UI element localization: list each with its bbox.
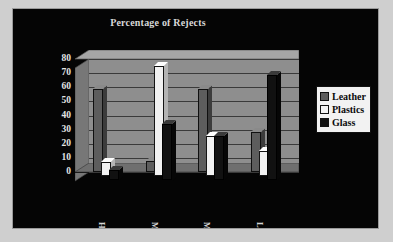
bar-glass-harrisburg <box>109 170 119 180</box>
bar-glass-lafayette <box>267 75 277 180</box>
legend-label: Leather <box>332 92 366 102</box>
legend-item-leather[interactable]: Leather <box>320 90 366 103</box>
bar-front-face <box>109 170 119 180</box>
legend-swatch-icon <box>320 118 329 127</box>
bar-front-face <box>214 136 224 180</box>
legend-swatch-icon <box>320 105 329 114</box>
legend-label: Glass <box>332 118 355 128</box>
y-axis-tick: 60 <box>39 83 71 93</box>
gridline <box>89 59 299 60</box>
category-label: Lafayette <box>255 222 265 229</box>
bar-glass-morristown <box>214 136 224 180</box>
y-axis-tick: 40 <box>39 111 71 121</box>
bar-front-face <box>267 75 277 180</box>
legend-swatch-icon <box>320 92 329 101</box>
y-axis-tick: 20 <box>39 139 71 149</box>
legend-label: Plastics <box>332 105 364 115</box>
y-axis-tick: 80 <box>39 54 71 64</box>
chart-frame: Percentage of Rejects 01020304050607080 <box>12 8 379 229</box>
bar-front-face <box>162 124 172 181</box>
bar-glass-mobile <box>162 124 172 181</box>
bar-side-face <box>224 133 228 180</box>
bar-leather-harrisburg <box>93 89 103 172</box>
y-axis-tick: 50 <box>39 97 71 107</box>
bar-side-face <box>277 72 281 180</box>
legend-item-glass[interactable]: Glass <box>320 116 366 129</box>
y-axis-tick: 10 <box>39 153 71 163</box>
bar-front-face <box>93 89 103 172</box>
y-axis-tick: 0 <box>39 167 71 177</box>
plot-area: HarrisburgMobileMorristownLafayette <box>75 50 299 177</box>
chart-legend: LeatherPlasticsGlass <box>316 86 371 133</box>
category-label: Harrisburg <box>97 222 107 229</box>
chart-title: Percentage of Rejects <box>13 17 303 28</box>
y-axis-tick: 70 <box>39 68 71 78</box>
category-label: Morristown <box>202 222 212 229</box>
bar-side-face <box>172 120 176 180</box>
category-label: Mobile <box>150 222 160 229</box>
y-axis-tick: 30 <box>39 125 71 135</box>
y-axis: 01020304050607080 <box>39 50 71 177</box>
legend-item-plastics[interactable]: Plastics <box>320 103 366 116</box>
screenshot-root: Percentage of Rejects 01020304050607080 <box>0 0 393 242</box>
